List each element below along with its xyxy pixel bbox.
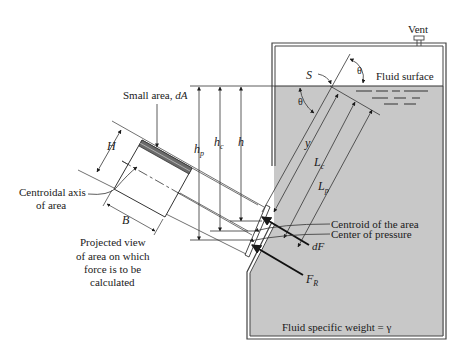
theta-left-label: θ [298,96,303,107]
vent-label: Vent [408,23,428,35]
specific-weight-label: Fluid specific weight = γ [282,321,392,333]
theta-top-label: θ [357,65,362,76]
svg-text:of area on which: of area on which [76,250,150,262]
y-label: y [304,136,311,150]
center-of-pressure-label: Center of pressure [331,228,412,240]
h-label: h [238,135,244,149]
centroidal-axis-label-1: Centroidal axis [19,186,86,198]
projected-view-caption: Projected view of area on which force is… [76,236,150,288]
s-pointer [318,74,331,84]
hc-label: hc [214,135,224,151]
vent-icon [414,36,424,46]
svg-text:calculated: calculated [90,276,135,288]
projected-area [114,140,192,217]
small-area-label: Small area, dA [123,89,188,101]
hydrostatic-diagram: Vent Fluid surface S θ θ y Lc Lp [0,0,468,358]
tank: Vent Fluid surface [247,23,446,339]
B-label: B [122,213,130,227]
svg-text:force is to be: force is to be [84,263,141,275]
H-label: H [106,139,117,153]
df-label: dF [312,240,325,252]
fluid-surface-label: Fluid surface [376,70,434,82]
centroidal-axis-label-2: of area [36,199,66,211]
fluid-body [250,86,444,336]
hp-label: hp [194,142,204,158]
s-label: S [306,68,312,82]
svg-text:Projected view: Projected view [80,236,146,248]
